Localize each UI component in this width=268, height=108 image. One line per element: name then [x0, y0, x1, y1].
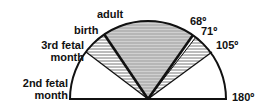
label-2nd-line2: month — [12, 89, 68, 101]
label-2nd-fetal-month: 2nd fetal month — [12, 77, 68, 101]
label-birth: birth — [74, 24, 98, 36]
label-105deg: 105º — [216, 39, 238, 51]
label-adult: adult — [97, 8, 123, 20]
label-180deg: 180º — [232, 91, 254, 103]
label-71deg: 71º — [201, 25, 217, 37]
label-3rd-line1: 3rd fetal — [30, 39, 84, 51]
label-3rd-fetal-month: 3rd fetal month — [30, 39, 84, 63]
label-3rd-line2: month — [30, 51, 84, 63]
label-2nd-line1: 2nd fetal — [12, 77, 68, 89]
